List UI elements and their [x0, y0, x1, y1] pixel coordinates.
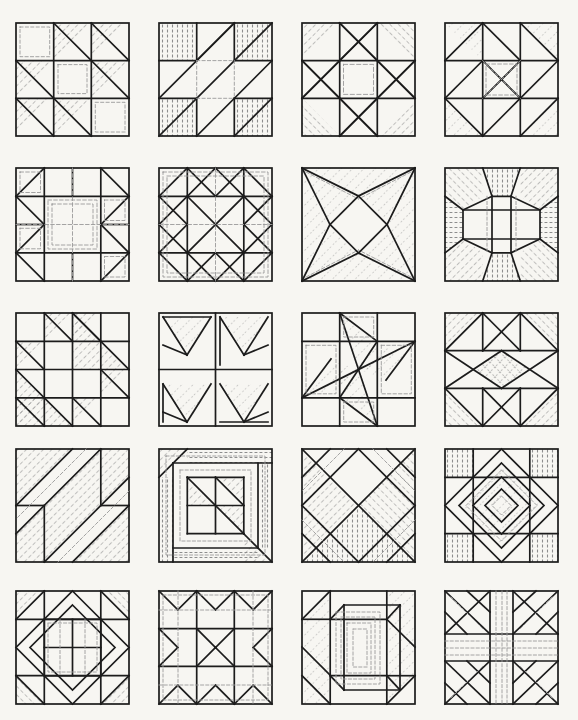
block-1: [16, 23, 129, 136]
block-20: [445, 591, 558, 704]
block-9: [16, 313, 129, 426]
block-18: [159, 591, 272, 704]
block-17: [16, 591, 129, 704]
block-13: [16, 449, 129, 562]
block-3: [302, 23, 415, 136]
block-6: [159, 168, 272, 281]
quilt-pattern-plate: Quilt Block Pattern Plate: [0, 0, 578, 720]
block-7: [302, 168, 415, 281]
block-19: [302, 591, 415, 704]
block-4: [445, 23, 558, 136]
block-12: [445, 313, 558, 426]
block-16: [445, 449, 558, 562]
block-14: [159, 449, 272, 562]
block-15: [302, 449, 415, 562]
block-11: [302, 313, 415, 426]
block-5: [16, 168, 129, 281]
block-8: [445, 168, 558, 281]
block-10: [159, 313, 272, 426]
block-2: [159, 23, 272, 136]
